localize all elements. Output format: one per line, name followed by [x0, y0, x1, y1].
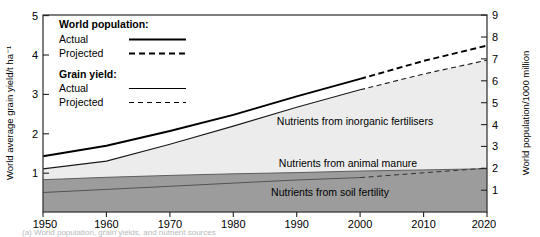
y-tick-label: 5 — [32, 10, 38, 22]
legend-group-heading-population: World population: — [59, 18, 149, 30]
chart-svg: 5 4 3 2 1 9 8 7 6 5 4 3 2 1 — [0, 0, 540, 237]
band-label-inorganic-fertilisers: Nutrients from inorganic fertilisers — [277, 115, 433, 127]
legend-entry-population-projected: Projected — [59, 47, 104, 59]
legend-entry-grain-yield-projected: Projected — [59, 96, 104, 108]
y2-tick-label: 6 — [492, 75, 498, 87]
y-tick-label: 1 — [32, 167, 38, 179]
y2-tick-label: 8 — [492, 31, 498, 43]
x-axis-ticks — [43, 212, 487, 217]
band-label-animal-manure: Nutrients from animal manure — [279, 157, 417, 169]
legend-group-heading-grain-yield: Grain yield: — [59, 68, 117, 80]
y-axis-left-ticks — [43, 16, 49, 174]
legend: World population: Actual Projected Grain… — [59, 18, 186, 108]
band-label-soil-fertility: Nutrients from soil fertility — [271, 186, 390, 198]
y-axis-right-labels: 9 8 7 6 5 4 3 2 1 — [492, 9, 498, 196]
y-axis-left-title: World average grain yield/t ha⁻¹ — [4, 46, 15, 180]
figure-container: 5 4 3 2 1 9 8 7 6 5 4 3 2 1 — [0, 0, 540, 237]
y-tick-label: 2 — [32, 128, 38, 140]
figure-caption-clipped: (a) World population, grain yields, and … — [22, 228, 522, 237]
y2-tick-label: 4 — [492, 119, 498, 131]
legend-entry-grain-yield-actual: Actual — [59, 82, 88, 94]
y2-tick-label: 3 — [492, 140, 498, 152]
y-tick-label: 3 — [32, 88, 38, 100]
y-tick-label: 4 — [32, 49, 38, 61]
y2-tick-label: 5 — [492, 97, 498, 109]
y-axis-left-labels: 5 4 3 2 1 — [32, 10, 38, 180]
y2-tick-label: 7 — [492, 53, 498, 65]
y-axis-right-title: World population/1000 million — [520, 51, 531, 175]
legend-entry-population-actual: Actual — [59, 33, 88, 45]
y2-tick-label: 1 — [492, 184, 498, 196]
y2-tick-label: 9 — [492, 9, 498, 21]
y2-tick-label: 2 — [492, 162, 498, 174]
